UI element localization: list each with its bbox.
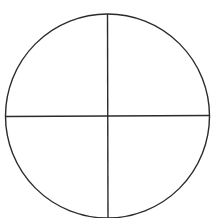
horizontal-divider xyxy=(6,116,210,117)
quadrant-circle-diagram xyxy=(0,0,217,218)
